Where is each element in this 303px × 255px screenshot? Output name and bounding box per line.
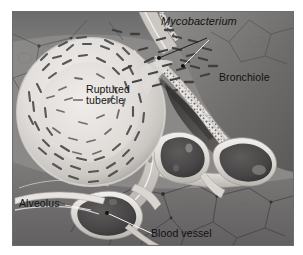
label-bronchiole: Bronchiole	[219, 71, 270, 83]
illustration-figure: Mycobacterium Bronchiole Ruptured tuberc…	[0, 0, 303, 255]
label-blood-vessel: Blood vessel	[151, 227, 212, 239]
label-mycobacterium: Mycobacterium	[161, 15, 237, 27]
label-ruptured-tubercle-line2: tubercle	[86, 94, 124, 106]
illustration-artwork	[13, 12, 293, 245]
illustration-plate: Mycobacterium Bronchiole Ruptured tuberc…	[12, 11, 294, 246]
label-alveolus: Alveolus	[19, 197, 60, 209]
label-ruptured-tubercle-line1: Ruptured	[86, 83, 130, 95]
label-ruptured-tubercle: Ruptured tubercle	[86, 84, 130, 107]
